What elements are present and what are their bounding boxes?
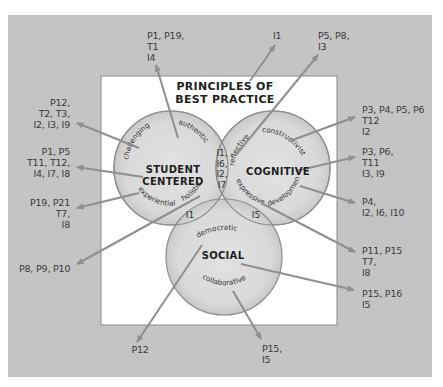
overlap-cognitive-social: I5: [246, 210, 266, 221]
ref-authentic: P1, P19, T1 I4: [147, 30, 184, 63]
ref-student-centered: P1, P5 T11, T12, I4, I7, I8: [10, 146, 70, 179]
overlap-student-social: I1: [180, 210, 200, 221]
circle-title-social: SOCIAL: [183, 250, 263, 262]
ref-challenging: P12, T2, T3, I2, I3, I9: [20, 97, 70, 130]
ref-reflective: I1: [273, 30, 281, 41]
ref-expressive: P11, P15 T7, I8: [362, 245, 402, 278]
ref-democratic: P12: [125, 344, 155, 355]
overlap-student-cognitive: I1, I6, I2, I7: [212, 148, 232, 190]
ref-collaborative: P15, I5: [262, 343, 282, 365]
ref-social: P15, P16 I5: [362, 288, 402, 310]
principles-diagram: challenging authentic experiential holis…: [0, 0, 443, 387]
ref-cognitive-top: P5, P8, I3: [318, 30, 349, 52]
circle-title-cognitive: COGNITIVE: [238, 166, 318, 178]
ref-holistic: P8, P9, P10: [19, 263, 70, 274]
diagram-title: PRINCIPLES OF BEST PRACTICE: [160, 80, 290, 106]
ref-experiential: P19, P21 T7, I8: [10, 197, 70, 230]
circle-title-student-centered: STUDENT CENTERED: [133, 164, 213, 188]
ref-developmental: P4, I2, I6, I10: [362, 196, 404, 218]
ref-constructivist: P3, P4, P5, P6 T12 I2: [362, 104, 424, 137]
ref-cognitive: P3, P6, T11 I3, I9: [362, 146, 393, 179]
